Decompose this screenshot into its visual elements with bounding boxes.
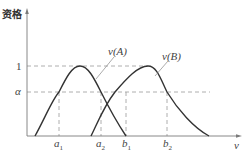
leader-nu-b <box>155 61 168 76</box>
leader-lines <box>96 57 168 79</box>
x-tick-a2-sub: 2 <box>102 144 106 152</box>
x-tick-b1: b1 <box>122 138 131 152</box>
x-tick-a2: a2 <box>96 138 105 152</box>
leader-nu-a <box>96 57 114 79</box>
curve-label-nu-b: ν(B) <box>162 51 181 62</box>
x-axis-arrow-icon <box>236 134 242 138</box>
curve-nu-b <box>91 66 209 136</box>
curve-label-nu-a: ν(A) <box>108 46 127 57</box>
x-tick-a1-sub: 1 <box>60 144 64 152</box>
x-axis-label: ν <box>234 140 239 151</box>
x-tick-b1-sub: 1 <box>128 144 132 152</box>
y-axis-label: 资格 <box>2 10 22 20</box>
x-tick-a1: a1 <box>54 138 63 152</box>
curves <box>35 66 209 136</box>
guide-lines <box>27 66 210 136</box>
y-axis-arrow-icon <box>25 8 29 14</box>
y-tick-1: 1 <box>16 61 22 72</box>
curve-nu-a <box>35 66 126 136</box>
y-tick-alpha: α <box>15 86 21 97</box>
membership-diagram <box>0 0 244 153</box>
x-tick-b2-sub: 2 <box>169 144 173 152</box>
x-tick-b2: b2 <box>163 138 172 152</box>
